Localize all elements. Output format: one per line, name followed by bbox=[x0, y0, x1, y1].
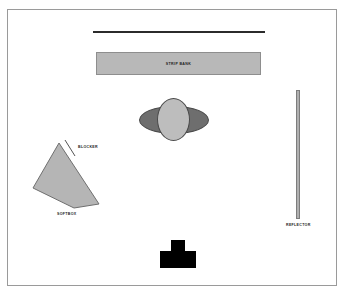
camera-icon bbox=[160, 240, 196, 268]
subject-head-ellipse bbox=[157, 98, 190, 141]
backdrop-line bbox=[93, 31, 265, 33]
reflector-label: REFLECTOR bbox=[286, 223, 311, 227]
blocker-label: BLOCKER bbox=[78, 145, 98, 149]
lighting-setup-diagram: STRIP BANK BLOCKER SOFTBOX REFLECTOR bbox=[0, 0, 347, 300]
softbox-label: SOFTBOX bbox=[57, 212, 76, 216]
reflector-shape bbox=[296, 90, 300, 219]
blocker-flag-line bbox=[64, 139, 76, 157]
strip-bank-label: STRIP BANK bbox=[166, 62, 191, 66]
strip-bank-shape: STRIP BANK bbox=[96, 52, 261, 75]
